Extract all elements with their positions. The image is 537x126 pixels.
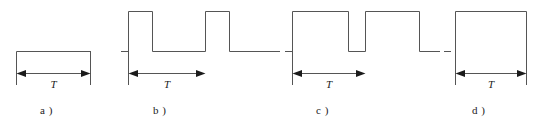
period-label-a: T: [50, 78, 57, 90]
panel-b-waveform: T: [118, 0, 284, 126]
panel-caption-a: a ): [40, 104, 53, 116]
arrow-head-left-d: [456, 70, 466, 77]
panel-caption-b: b ): [153, 104, 166, 116]
dimension-arrow-d: [456, 70, 527, 77]
panel-c-waveform: T: [282, 0, 444, 126]
panel-a-waveform: T: [0, 0, 120, 126]
panel-d-waveform: T: [442, 0, 537, 126]
arrow-head-right-c: [356, 70, 366, 77]
arrow-head-right-a: [81, 70, 91, 77]
arrow-head-left-c: [293, 70, 303, 77]
panel-a: T a ): [0, 0, 120, 126]
period-label-b: T: [164, 78, 171, 90]
period-label-c: T: [326, 78, 333, 90]
panel-c: T c ): [282, 0, 444, 126]
waveform-figure: T a ) T b ) T c ): [0, 0, 537, 126]
dimension-arrow-a: [17, 70, 91, 77]
panel-d: T d ): [442, 0, 537, 126]
dimension-arrow-b: [129, 70, 206, 77]
period-label-d: T: [488, 78, 495, 90]
dimension-arrow-c: [293, 70, 366, 77]
panel-caption-d: d ): [472, 104, 485, 116]
arrow-head-right-d: [517, 70, 527, 77]
panel-caption-c: c ): [316, 104, 329, 116]
arrow-head-left-a: [17, 70, 27, 77]
arrow-head-left-b: [129, 70, 139, 77]
panel-b: T b ): [118, 0, 284, 126]
arrow-head-right-b: [196, 70, 206, 77]
